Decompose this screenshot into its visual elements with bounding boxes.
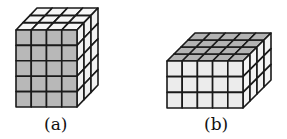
front-face-cell [182, 77, 197, 93]
front-face-cell [62, 61, 77, 76]
front-face-cell [197, 77, 212, 93]
front-face-cell [167, 92, 182, 108]
front-face-cell [228, 77, 243, 93]
front-face-cell [47, 30, 62, 45]
front-face-cell [167, 77, 182, 93]
front-face-cell [16, 92, 31, 107]
front-face-cell [213, 92, 228, 108]
front-face-cell [62, 92, 77, 107]
front-face-cell [213, 61, 228, 77]
front-face-cell [62, 76, 77, 91]
front-face-cell [16, 76, 31, 91]
front-face-cell [16, 45, 31, 60]
front-face-cell [197, 92, 212, 108]
front-face-cell [31, 45, 46, 60]
front-face-cell [228, 92, 243, 108]
front-face-cell [182, 92, 197, 108]
front-face-cell [167, 61, 182, 77]
label-b: (b) [204, 114, 228, 134]
front-face-cell [31, 76, 46, 91]
label-a: (a) [44, 114, 67, 134]
front-face-cell [228, 61, 243, 77]
front-face-cell [16, 61, 31, 76]
front-face-cell [182, 61, 197, 77]
front-face-cell [197, 61, 212, 77]
front-face-cell [213, 77, 228, 93]
front-face-cell [62, 30, 77, 45]
front-face-cell [31, 30, 46, 45]
front-face-cell [31, 92, 46, 107]
front-face-cell [47, 76, 62, 91]
front-face-cell [31, 61, 46, 76]
front-face-cell [62, 45, 77, 60]
front-face-cell [16, 30, 31, 45]
front-face-cell [47, 61, 62, 76]
front-face-cell [47, 45, 62, 60]
front-face-cell [47, 92, 62, 107]
